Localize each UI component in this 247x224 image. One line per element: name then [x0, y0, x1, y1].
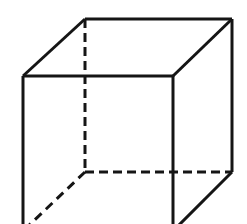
bottom-left-diagonal-edge — [23, 172, 85, 224]
bottom-right-diagonal-edge — [173, 172, 232, 224]
visible-edges-group — [23, 19, 232, 224]
top-left-diagonal-edge — [23, 19, 85, 76]
cube-wireframe-diagram — [0, 0, 247, 224]
figure-canvas — [0, 0, 247, 224]
top-right-diagonal-edge — [173, 19, 232, 76]
